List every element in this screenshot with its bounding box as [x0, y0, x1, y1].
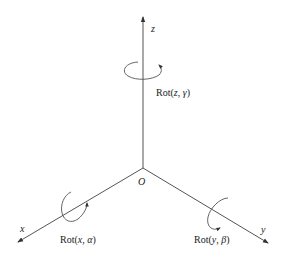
x-rotation-arrow-icon — [61, 192, 87, 221]
z-axis-label: z — [150, 23, 155, 34]
z-rotation-label: Rot(z, γ) — [156, 87, 190, 99]
y-axis: y — [143, 168, 268, 243]
y-rotation-arrow-icon — [208, 198, 228, 229]
x-rotation-label: Rot(x, α) — [60, 234, 96, 246]
coordinate-frame-diagram: z x y O Rot(z, γ) Rot(x, α) Rot(y, β) — [0, 0, 283, 259]
origin-label: O — [138, 176, 145, 187]
y-axis-label: y — [260, 224, 266, 235]
y-rotation-label: Rot(y, β) — [194, 234, 230, 246]
z-axis: z — [143, 17, 155, 168]
x-axis: x — [18, 168, 143, 242]
x-axis-label: x — [19, 223, 25, 234]
